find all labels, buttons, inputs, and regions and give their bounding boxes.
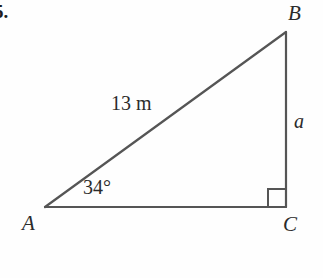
vertex-label-a: A	[22, 213, 35, 234]
vertex-label-c: C	[283, 214, 297, 235]
side-ab-hypotenuse	[45, 32, 286, 207]
item-number: 5.	[0, 2, 8, 21]
opposite-side-label: a	[294, 111, 304, 131]
angle-a-label: 34°	[83, 177, 111, 197]
hypotenuse-length-label: 13 m	[111, 93, 152, 113]
triangle-figure: 5. B A C 13 m a 34°	[0, 0, 323, 278]
triangle-drawing	[0, 0, 323, 278]
vertex-label-b: B	[288, 3, 301, 24]
right-angle-marker	[268, 189, 286, 207]
